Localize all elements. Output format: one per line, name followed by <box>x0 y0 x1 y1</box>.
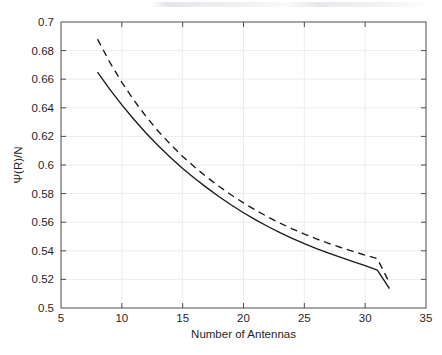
x-tick-label: 5 <box>58 312 64 324</box>
x-tick-label: 35 <box>420 312 433 324</box>
figure-canvas: 5101520253035 0.50.520.540.560.580.60.62… <box>0 0 442 355</box>
x-tick-label: 10 <box>115 312 128 324</box>
y-tick-label: 0.54 <box>32 245 55 257</box>
y-tick-label: 0.5 <box>38 302 54 314</box>
y-tick-label: 0.6 <box>38 159 54 171</box>
y-tick-label: 0.52 <box>32 273 54 285</box>
y-axis-title: Ψ(R)/N <box>12 146 24 183</box>
x-tick-label: 30 <box>359 312 372 324</box>
y-tick-label: 0.68 <box>32 45 54 57</box>
y-axis-tick-labels: 0.50.520.540.560.580.60.620.640.660.680.… <box>32 16 55 314</box>
x-tick-label: 15 <box>176 312 189 324</box>
y-tick-label: 0.7 <box>38 16 54 28</box>
x-axis-tick-labels: 5101520253035 <box>58 312 433 324</box>
gridlines <box>61 22 426 308</box>
line-chart: 5101520253035 0.50.520.540.560.580.60.62… <box>0 0 442 355</box>
y-tick-label: 0.58 <box>32 188 54 200</box>
x-tick-label: 20 <box>237 312 250 324</box>
x-tick-label: 25 <box>298 312 311 324</box>
y-tick-label: 0.64 <box>32 102 55 114</box>
y-tick-label: 0.56 <box>32 216 54 228</box>
x-axis-title: Number of Antennas <box>191 328 296 340</box>
y-tick-label: 0.66 <box>32 73 54 85</box>
y-tick-label: 0.62 <box>32 130 54 142</box>
